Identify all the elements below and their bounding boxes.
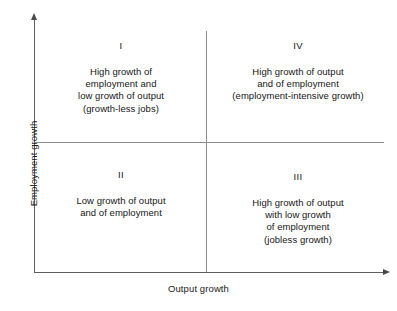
quadrant-ii-description: Low growth of output and of employment <box>40 195 202 219</box>
quadrant-iv: IV High growth of output and of employme… <box>212 40 384 103</box>
quadrant-ii-line-2: and of employment <box>40 207 202 219</box>
y-axis-arrow-icon <box>31 13 37 20</box>
quadrant-ii-line-1: Low growth of output <box>40 195 202 207</box>
x-axis-arrow-icon <box>383 269 390 275</box>
x-axis-title: Output growth <box>0 283 397 294</box>
quadrant-i-numeral: I <box>40 40 202 52</box>
quadrant-iii-description: High growth of output with low growth of… <box>212 197 384 246</box>
quadrant-i-line-4: (growth-less jobs) <box>40 103 202 115</box>
quadrant-divider-horizontal <box>35 142 384 143</box>
quadrant-iv-line-1: High growth of output <box>212 66 384 78</box>
quadrant-iv-description: High growth of output and of employment … <box>212 66 384 103</box>
quadrant-iii: III High growth of output with low growt… <box>212 171 384 246</box>
quadrant-i-description: High growth of employment and low growth… <box>40 66 202 115</box>
quadrant-iii-line-4: (jobless growth) <box>212 234 384 246</box>
quadrant-iii-line-1: High growth of output <box>212 197 384 209</box>
quadrant-i-line-3: low growth of output <box>40 90 202 102</box>
quadrant-iv-line-2: and of employment <box>212 78 384 90</box>
quadrant-iv-line-3: (employment-intensive growth) <box>212 90 384 102</box>
quadrant-divider-vertical <box>206 31 207 272</box>
x-axis-line <box>34 272 385 273</box>
quadrant-iv-numeral: IV <box>212 40 384 52</box>
quadrant-iii-numeral: III <box>212 171 384 183</box>
quadrant-i-line-2: employment and <box>40 78 202 90</box>
quadrant-iii-line-3: of employment <box>212 221 384 233</box>
quadrant-ii-numeral: II <box>40 169 202 181</box>
quadrant-ii: II Low growth of output and of employmen… <box>40 169 202 219</box>
quadrant-diagram: Employment growth Output growth I High g… <box>0 0 397 311</box>
quadrant-i: I High growth of employment and low grow… <box>40 40 202 115</box>
quadrant-i-line-1: High growth of <box>40 66 202 78</box>
quadrant-iii-line-2: with low growth <box>212 209 384 221</box>
y-axis-title: Employment growth <box>28 84 39 244</box>
